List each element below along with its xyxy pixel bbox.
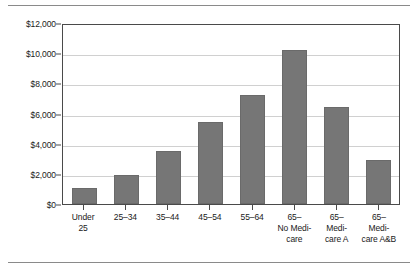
x-axis-tick-label: Under25 <box>63 212 103 245</box>
x-axis-label-line: care A <box>317 234 357 245</box>
bar <box>240 95 265 204</box>
x-axis-label-line: No Medi- <box>274 223 314 234</box>
x-axis-tick-slot <box>197 205 222 210</box>
y-axis-tick-label: $2,000 <box>31 170 56 180</box>
x-axis-labels: Under2525–3435–4445–5455–6465–No Medi-ca… <box>62 212 400 245</box>
y-axis-tick-mark <box>56 174 61 175</box>
figure-top-border <box>8 5 410 6</box>
bar <box>282 50 307 204</box>
x-axis-tick-label: 45–54 <box>190 212 230 245</box>
bar <box>156 151 181 204</box>
x-axis-tick-mark <box>336 205 337 210</box>
bar <box>198 122 223 204</box>
x-axis-tick-slot <box>71 205 96 210</box>
y-axis: $0$2,000$4,000$6,000$8,000$10,000$12,000 <box>0 24 56 205</box>
x-axis-label-line: Medi- <box>359 223 399 234</box>
x-axis-label-line: care <box>274 234 314 245</box>
bar-series <box>63 25 399 204</box>
plot-area <box>62 24 400 205</box>
x-axis-label-line: care A&B <box>359 234 399 245</box>
x-axis-label-line: 55–64 <box>232 212 272 223</box>
x-axis-label-line: Medi- <box>317 223 357 234</box>
x-axis-tick-mark <box>294 205 295 210</box>
bar <box>114 175 139 204</box>
y-axis-tick-label: $4,000 <box>31 140 56 150</box>
y-axis-tick-label: $8,000 <box>31 79 56 89</box>
x-axis-label-line: 25–34 <box>105 212 145 223</box>
x-axis-label-line: Under <box>63 212 103 223</box>
x-axis-tick-label: 65–No Medi-care <box>274 212 314 245</box>
y-axis-tick-label: $12,000 <box>26 19 56 29</box>
x-axis-label-line: 65– <box>274 212 314 223</box>
y-axis-tick-label: $10,000 <box>26 49 56 59</box>
x-axis-tick-slot <box>366 205 391 210</box>
x-axis-tick-mark <box>378 205 379 210</box>
bar <box>324 107 349 204</box>
x-axis-tick-mark <box>167 205 168 210</box>
figure-bottom-border <box>8 262 410 263</box>
y-axis-tick-mark <box>56 84 61 85</box>
bar <box>72 188 97 204</box>
y-axis-tick-mark <box>56 144 61 145</box>
x-axis-tick-label: 35–44 <box>148 212 188 245</box>
x-axis-tick-mark <box>209 205 210 210</box>
x-axis-label-line: 65– <box>359 212 399 223</box>
x-axis-tick-label: 65–Medi-care A&B <box>359 212 399 245</box>
x-axis-tick-slot <box>113 205 138 210</box>
x-axis-tick-slot <box>240 205 265 210</box>
x-axis-tick-mark <box>125 205 126 210</box>
y-axis-tick-mark <box>56 24 61 25</box>
y-axis-tick-mark <box>56 205 61 206</box>
x-axis-label-line: 65– <box>317 212 357 223</box>
x-axis-label-line: 35–44 <box>148 212 188 223</box>
y-axis-tick-mark <box>56 54 61 55</box>
x-axis-tick-label: 25–34 <box>105 212 145 245</box>
bar <box>366 160 391 204</box>
x-axis-label-line: 45–54 <box>190 212 230 223</box>
x-axis-ticks <box>62 205 400 210</box>
y-axis-tick-label: $0 <box>47 200 56 210</box>
x-axis-tick-slot <box>282 205 307 210</box>
x-axis-tick-label: 65–Medi-care A <box>317 212 357 245</box>
x-axis-tick-label: 55–64 <box>232 212 272 245</box>
y-axis-tick-mark <box>56 114 61 115</box>
x-axis-tick-mark <box>252 205 253 210</box>
y-axis-tick-label: $6,000 <box>31 110 56 120</box>
bar-chart-figure: $0$2,000$4,000$6,000$8,000$10,000$12,000… <box>0 0 418 270</box>
x-axis-tick-mark <box>83 205 84 210</box>
x-axis-label-line: 25 <box>63 223 103 234</box>
x-axis-tick-slot <box>324 205 349 210</box>
x-axis-tick-slot <box>155 205 180 210</box>
